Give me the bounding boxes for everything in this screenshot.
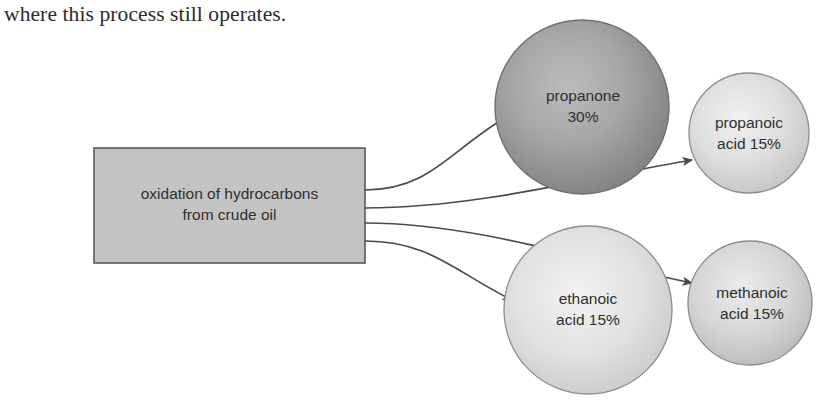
- product-circle-methanoic-acid: [688, 241, 812, 365]
- product-circle-propanoic-acid: [689, 73, 809, 193]
- flow-diagram: [0, 0, 830, 405]
- product-circle-propanone: [495, 20, 669, 194]
- product-circle-ethanoic-acid: [504, 226, 672, 394]
- arrow-to-ethanoic-acid: [365, 241, 512, 300]
- source-box: [94, 148, 365, 263]
- arrow-to-propanone: [365, 118, 505, 190]
